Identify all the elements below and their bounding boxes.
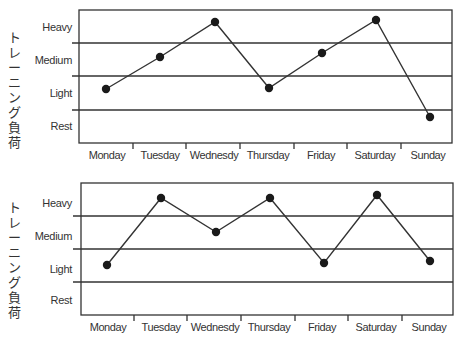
day-label-friday: Friday bbox=[295, 321, 349, 333]
data-point-friday bbox=[320, 259, 328, 267]
day-label-monday: Monday bbox=[80, 149, 134, 161]
series-line bbox=[107, 195, 430, 265]
data-point-tuesday bbox=[157, 194, 165, 202]
chart-bottom: ト レ ー ニ ン グ 負 荷 Heavy Medium Light Rest bbox=[0, 172, 465, 349]
day-label-friday: Friday bbox=[294, 149, 348, 161]
data-point-wednesday bbox=[211, 18, 219, 26]
day-label-sunday: Sunday bbox=[402, 321, 456, 333]
day-label-saturday: Saturday bbox=[348, 149, 402, 161]
day-label-sunday: Sunday bbox=[401, 149, 455, 161]
data-markers bbox=[103, 191, 434, 269]
data-point-friday bbox=[318, 49, 326, 57]
plot-area bbox=[0, 0, 465, 170]
day-label-monday: Monday bbox=[81, 321, 135, 333]
data-point-thursday bbox=[266, 194, 274, 202]
data-point-sunday bbox=[426, 257, 434, 265]
data-point-tuesday bbox=[156, 53, 164, 61]
chart-top: ト レ ー ニ ン グ 負 荷 Heavy Medium Light Rest bbox=[0, 0, 465, 170]
data-markers bbox=[102, 16, 434, 121]
day-label-saturday: Saturday bbox=[349, 321, 403, 333]
data-point-wednesday bbox=[212, 228, 220, 236]
day-label-thursday: Thursday bbox=[242, 321, 296, 333]
data-point-monday bbox=[102, 85, 110, 93]
day-label-wednesday: Wednesdy bbox=[188, 321, 242, 333]
data-point-monday bbox=[103, 261, 111, 269]
series-line bbox=[106, 20, 430, 117]
data-point-saturday bbox=[373, 191, 381, 199]
day-label-thursday: Thursday bbox=[241, 149, 295, 161]
day-label-tuesday: Tuesday bbox=[133, 149, 187, 161]
day-label-tuesday: Tuesday bbox=[134, 321, 188, 333]
day-label-wednesday: Wednesdy bbox=[187, 149, 241, 161]
data-point-thursday bbox=[265, 84, 273, 92]
data-point-sunday bbox=[426, 113, 434, 121]
data-point-saturday bbox=[372, 16, 380, 24]
